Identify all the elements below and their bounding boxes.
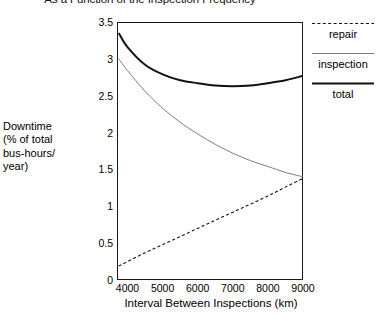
series-line-inspection xyxy=(119,59,303,177)
x-tick-label: 9000 xyxy=(291,283,314,294)
chart-title: As a Function of the Inspection Frequenc… xyxy=(0,0,300,5)
series-line-total xyxy=(119,33,303,86)
chart-legend: repairinspectiontotal xyxy=(312,20,376,110)
series-line-repair xyxy=(119,178,303,266)
legend-label-inspection: inspection xyxy=(312,57,374,71)
y-tick-label: 3 xyxy=(87,54,113,65)
x-tick-label: 6000 xyxy=(186,283,209,294)
legend-swatch-inspection xyxy=(312,50,374,57)
x-tick-label: 5000 xyxy=(151,283,174,294)
x-tick-label: 7000 xyxy=(221,283,244,294)
y-tick-label: 3.5 xyxy=(87,17,113,28)
y-tick-label: 0.5 xyxy=(87,238,113,249)
y-tick-label: 2.5 xyxy=(87,91,113,102)
x-tick-label: 4000 xyxy=(116,283,139,294)
y-tick-label: 0 xyxy=(87,275,113,286)
legend-swatch-repair xyxy=(312,20,374,27)
legend-swatch-total xyxy=(312,80,374,87)
chart-root: As a Function of the Inspection Frequenc… xyxy=(0,0,378,317)
plot-lines xyxy=(117,22,303,280)
legend-item-repair[interactable]: repair xyxy=(312,20,376,41)
legend-item-inspection[interactable]: inspection xyxy=(312,50,376,71)
x-axis-title: Interval Between Inspections (km) xyxy=(96,297,326,309)
y-tick-label: 1 xyxy=(87,201,113,212)
legend-item-total[interactable]: total xyxy=(312,80,376,101)
y-tick-label: 2 xyxy=(87,128,113,139)
y-axis-tick-labels: 00.511.522.533.5 xyxy=(85,22,113,280)
legend-label-total: total xyxy=(312,87,374,101)
x-axis-tick-labels: 400050006000700080009000 xyxy=(117,283,303,297)
x-tick-label: 8000 xyxy=(256,283,279,294)
y-tick-label: 1.5 xyxy=(87,164,113,175)
plot-area xyxy=(117,22,303,280)
legend-label-repair: repair xyxy=(312,27,374,41)
